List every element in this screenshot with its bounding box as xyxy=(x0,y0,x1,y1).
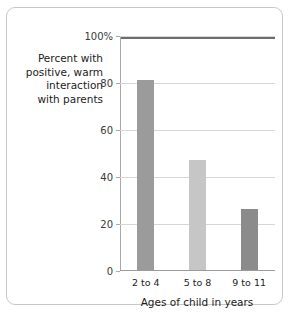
x-axis-tick-label: 2 to 4 xyxy=(132,277,160,288)
y-axis-tick-label: 100% xyxy=(84,31,113,42)
gridline xyxy=(120,36,275,37)
plot-area: 020406080100% 2 to 45 to 89 to 11 xyxy=(120,36,275,271)
y-axis-tick-label: 40 xyxy=(100,172,113,183)
y-axis-line xyxy=(120,36,121,271)
y-axis-tick-mark xyxy=(116,36,120,37)
bar xyxy=(189,160,206,270)
y-axis-tick-mark xyxy=(116,177,120,178)
y-axis-tick-mark xyxy=(116,224,120,225)
x-axis-title: Ages of child in years xyxy=(107,296,287,308)
y-axis-title: Percent with positive, warm interaction … xyxy=(11,52,103,106)
y-axis-tick-label: 20 xyxy=(100,219,113,230)
y-axis-tick-mark xyxy=(116,271,120,272)
x-axis-tick-label: 9 to 11 xyxy=(232,277,266,288)
y-axis-tick-label: 60 xyxy=(100,125,113,136)
bar xyxy=(241,209,258,270)
y-axis-tick-mark xyxy=(116,130,120,131)
y-axis-tick-label: 80 xyxy=(100,78,113,89)
x-axis-tick-label: 5 to 8 xyxy=(184,277,212,288)
y-axis-tick-mark xyxy=(116,83,120,84)
bar xyxy=(137,80,154,270)
chart-card: Percent with positive, warm interaction … xyxy=(6,7,283,305)
y-axis-tick-label: 0 xyxy=(107,266,113,277)
